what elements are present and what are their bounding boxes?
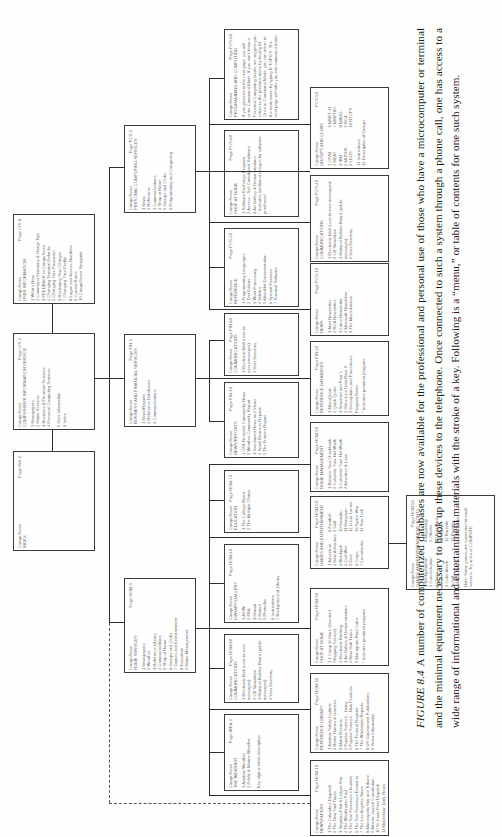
menu-item: 11 Middletown Daily News: [381, 765, 386, 833]
menu-box-pcs-news: CompuServePage PCS-10 NEWS 1 Atari Newsl…: [310, 263, 389, 336]
connector-line: [209, 124, 310, 125]
menu-box-hom-weather: CompuServePage WEA-1 THE WEATHER 1 Aviat…: [224, 714, 299, 791]
connector-line: [209, 583, 224, 584]
page-label: Page PCS-80: [228, 135, 233, 161]
caption-text: A number of computerized databases are n…: [414, 28, 461, 728]
menu-item: 9 Home Management: [184, 583, 189, 670]
connector-line: [209, 171, 310, 172]
menu-box-index: CompuServePage INX-1 INDEX: [13, 451, 95, 551]
menu-box-hom-shop: CompuServePage HOM-60 SHOP AT HOME 1 1 C…: [310, 588, 389, 666]
menu-item: 3 National Bulletin Board (public messag…: [257, 639, 268, 700]
connector-line: [196, 171, 209, 172]
menu-item: 10 CompuServe Viewpoint: [78, 219, 83, 301]
connector-line: [95, 378, 110, 379]
menu-title: COMMUNICATIONS: [319, 180, 324, 259]
menu-box-hom-education: CompuServePage HOM-70 EDUCATION 1 The Co…: [224, 470, 299, 533]
menu-item: 7 Lunarlander: [359, 535, 364, 566]
page-label: Page HOM-10: [314, 765, 319, 792]
menu-title: EDUCATION: [233, 475, 238, 530]
connector-line: [209, 267, 210, 310]
menu-title: PERSONAL COMPUTING SERVICES: [133, 130, 138, 210]
connector-line: [109, 378, 124, 379]
connector-line: [209, 378, 310, 379]
menu-note: * Indicates premium program: [361, 346, 366, 413]
menu-item: 2 Access - Sell Contributed Software: [246, 135, 251, 214]
menu-title: COMMUNICATIONS: [233, 318, 238, 373]
menu-box-pcs-reference: CompuServePage PCS-20 REFERENCE 1 Progra…: [224, 228, 299, 307]
menu-box-cis: CompuServePage CIS-1 COMPUSERVE INFORMAT…: [13, 333, 95, 430]
page-label: Page HOM-1: [128, 583, 133, 607]
connector-line: [196, 628, 209, 629]
menu-box-hom-newspapers: CompuServePage HOM-10 NEWSPAPERS 1 The C…: [310, 760, 389, 836]
menu-box-fin: CompuServePage FIN-1 BUSINESS AND FINANC…: [124, 334, 196, 427]
menu-item: 5 The Futures Report: [262, 387, 267, 455]
page-label: Page INX-1: [17, 456, 22, 478]
connector-line: [209, 309, 310, 310]
menu-item: 4 User Directory: [348, 180, 353, 259]
page-label: Page CIS-8: [17, 219, 22, 241]
page-label: Page HOM-60: [314, 593, 319, 620]
menu-title: SHOP AT HOME: [233, 135, 238, 214]
page-label: PCS-50: [314, 92, 319, 107]
menu-box-hom-library: CompuServePage HOM-40 LIBRARY/GALLERY 1 …: [224, 544, 299, 623]
connector-line: [209, 500, 224, 501]
menu-item: 3 National Bulletin Board (public messag…: [338, 180, 349, 259]
menu-item: 5 Descriptions and Procedures Program Ra…: [348, 346, 359, 413]
menu-text: Once in Command Mode, you can return to …: [262, 34, 278, 117]
page-label: Page WEA-1: [228, 719, 233, 743]
connector-line: [209, 464, 210, 796]
menu-note: * Indicates premium program: [361, 593, 366, 663]
menu-box-hom-management: CompuServePage HOM-90 HOME MANAGEMENT 1 …: [310, 422, 389, 492]
connector-line: [109, 167, 124, 168]
menu-box-hom-games: CompuServePage HOM-50 GAMES AND ENTERTAI…: [310, 496, 389, 569]
menu-item: 1 Electronic Mail (user-to-user messages…: [241, 318, 252, 373]
page-label: Page PCS-20: [228, 233, 233, 259]
menu-title: HOME SERVICES: [133, 583, 138, 670]
menu-box-hom-communications: CompuServePage HOM-80 COMMUNICATIONS 1 E…: [224, 634, 299, 703]
menu-box-pcs-groups: CompuServePCS-50 GROUPS AND CLUBS 1 CP/M…: [310, 87, 389, 169]
menu-item: 7 Terminal Software: [273, 233, 278, 304]
menu-item: 4 User Directory: [268, 639, 273, 700]
menu-item: 10 NTCPS: [348, 92, 353, 128]
menu-note: Key digit or letter description: [256, 719, 261, 788]
page-label: Page PCS-10: [314, 268, 319, 294]
menu-item: 1 1 Comp-U-Store (Discount Shopping Serv…: [327, 593, 338, 663]
connector-line: [389, 543, 406, 544]
menu-title: THE WEATHER: [233, 719, 238, 788]
menu-title: INDEX: [22, 456, 27, 548]
menu-item: 2 The Multiple Choice: [246, 475, 251, 530]
page-label: Page PCS-40: [314, 180, 319, 206]
menu-title: COMMUNICATIONS: [233, 639, 238, 700]
page-label: Page HOM-70: [228, 475, 233, 502]
connector-line: [209, 795, 310, 796]
figure-caption: FIGURE 8.4A number of computerized datab…: [412, 28, 502, 728]
page-label: Page FIN-10: [228, 387, 233, 411]
menu-title: SHOP AT HOME: [319, 593, 324, 663]
menu-title: GAMES AND ENTERTAINMENT: [319, 501, 324, 566]
menu-item: 5 Monogram Rare Coins: [354, 593, 359, 663]
menu-title: REFERENCE: [233, 233, 238, 304]
menu-item: 9 Video Information: [370, 678, 375, 750]
menu-text: If you proceed to the next page, you wil…: [241, 34, 263, 117]
connector-line: [52, 430, 53, 451]
menu-item: 5 The Micro Advisor: [348, 268, 353, 333]
menu-item: 6 Programming and Computing: [168, 130, 173, 210]
menu-item: 1 Electronic Mail (user-to-user messages…: [241, 639, 252, 700]
menu-box-fin-news: CompuServePage FIN-10 NEWS/REPORTS 1 CPA…: [224, 382, 299, 458]
connector-line: [209, 340, 210, 422]
connector-line: [196, 378, 209, 379]
menu-title: REFERENCE DATABASES: [319, 346, 324, 413]
connector-line: [209, 78, 210, 268]
menu-title: BUSINESS AND FINANCIAL SERVICES: [133, 339, 138, 424]
menu-title: GROUPS AND CLUBS: [319, 92, 324, 166]
menu-title: NEWS/REPORTS: [233, 387, 238, 455]
menu-title: COMPUSERVE INFORMATION SERVICE: [22, 338, 27, 427]
menu-box-pcs-shop: CompuServePage PCS-80 SHOP AT HOME 1 Sof…: [224, 130, 299, 217]
menu-item: 3 Communications: [152, 339, 157, 424]
menu-item: 2 User Directory: [252, 318, 257, 373]
connector-line: [209, 267, 224, 268]
menu-box-user-info: CompuServePage CIS-8 USER INFORMATION 1 …: [13, 214, 95, 304]
menu-box-pcs-communications: CompuServePage PCS-40 COMMUNICATIONS 1 E…: [310, 175, 389, 262]
connector-line: [209, 709, 310, 710]
connector-line: [209, 628, 310, 629]
